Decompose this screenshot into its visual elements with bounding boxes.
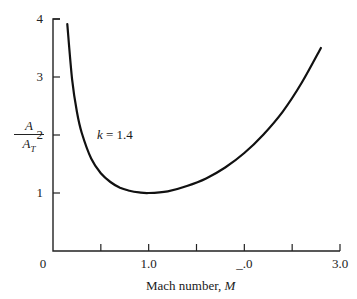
y-tick-label: 4: [37, 11, 44, 26]
x-tick-label: 1.0: [141, 256, 157, 271]
y-axis-label: A AT: [14, 118, 44, 157]
x-label-variable: M: [225, 278, 236, 293]
y-label-numerator: A: [14, 118, 44, 135]
area-ratio-curve: [67, 24, 321, 193]
y-ticks: 1234: [37, 11, 61, 200]
curve-annotation: k = 1.4: [97, 127, 133, 143]
x-label-text: Mach number,: [146, 278, 225, 293]
x-tick-label: _.0: [235, 256, 252, 271]
y-tick-label: 1: [37, 185, 44, 200]
x-tick-label: 3.0: [332, 256, 348, 271]
x-ticks: 01.0_.03.0: [40, 244, 348, 271]
y-label-denominator: AT: [14, 135, 44, 157]
annotation-value: = 1.4: [103, 127, 133, 142]
chart-plot-area: 01.0_.03.0 1234: [0, 0, 357, 299]
x-axis-label: Mach number, M: [146, 278, 235, 294]
y-label-subscript: T: [30, 144, 35, 154]
y-tick-label: 3: [37, 69, 44, 84]
x-tick-label: 0: [40, 256, 47, 271]
